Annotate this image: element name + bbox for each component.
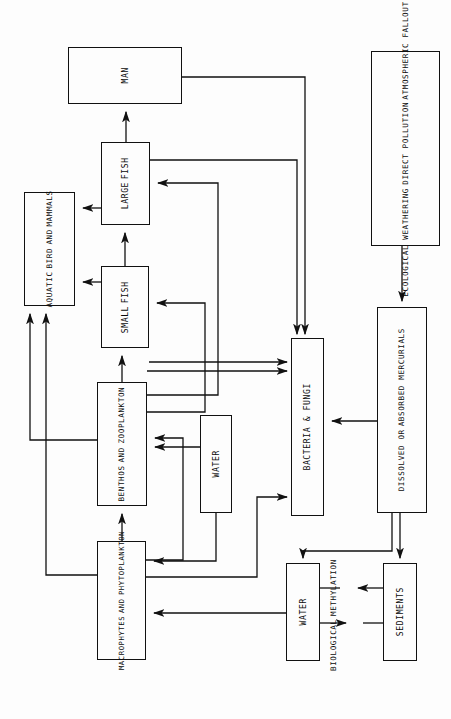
node-aquatic-bird-label-4: MAMMALS bbox=[46, 190, 54, 226]
node-aquatic-bird-and-mammals[interactable]: AQUATIC BIRD AND MAMMALS bbox=[24, 192, 75, 306]
node-aquatic-bird-label-1: AQUATIC bbox=[46, 272, 54, 308]
label-biological-methylation-line-1: BIOLOGICAL bbox=[330, 619, 338, 671]
node-small-fish[interactable]: SMALL FISH bbox=[101, 266, 149, 348]
edge-large-fish-to-bacteria bbox=[150, 160, 297, 334]
node-macrophytes-label-2: AND bbox=[118, 598, 126, 613]
edge-benthos-to-aquatic-bird bbox=[30, 314, 97, 440]
label-biological-methylation: BIOLOGICAL METHYLATION bbox=[330, 570, 364, 660]
node-benthos-label-3: ZOOPLANKTON bbox=[118, 387, 126, 444]
node-water-mid-label: WATER bbox=[212, 450, 220, 477]
node-man-label: MAN bbox=[121, 67, 129, 83]
node-macrophytes-and-phytoplankton[interactable]: MACROPHYTES AND PHYTOPLANKTON bbox=[97, 541, 146, 660]
node-aquatic-bird-label-2: BIRD bbox=[46, 248, 54, 269]
edge-mercurials-to-water-bottom bbox=[303, 513, 392, 558]
edge-macrophytes-to-aquatic-bird bbox=[46, 314, 97, 575]
edge-water-mid-to-macrophytes bbox=[154, 513, 216, 561]
node-large-fish[interactable]: LARGE FISH bbox=[101, 142, 150, 225]
node-benthos-and-zooplankton[interactable]: BENTHOS AND ZOOPLANKTON bbox=[97, 382, 147, 506]
node-weathering-label-2: DIRECT POLLUTION bbox=[402, 102, 410, 185]
node-benthos-label-1: BENTHOS bbox=[118, 465, 126, 501]
node-dissolved-or-absorbed-mercurials[interactable]: DISSOLVED OR ABSORBED MERCURIALS bbox=[377, 307, 427, 513]
node-weathering-label-3: ATMOSPHERIC FALLOUT bbox=[402, 1, 410, 99]
node-sediments[interactable]: SEDIMENTS bbox=[383, 563, 417, 661]
node-macrophytes-label-1: MACROPHYTES bbox=[118, 616, 126, 670]
node-mercurials-label-1: DISSOLVED OR bbox=[398, 430, 406, 492]
node-small-fish-label-1: SMALL bbox=[121, 306, 129, 333]
node-weathering-label-1: ECOLOGICAL WEATHERING bbox=[402, 188, 410, 297]
node-bacteria-and-fungi[interactable]: BACTERIA & FUNGI bbox=[291, 338, 324, 516]
edge-benthos-to-large-fish bbox=[147, 183, 218, 395]
node-bacteria-label: BACTERIA & FUNGI bbox=[303, 383, 311, 471]
node-sediments-label: SEDIMENTS bbox=[396, 587, 404, 636]
edge-macrophytes-to-benthos-right bbox=[146, 438, 183, 560]
node-small-fish-label-2: FISH bbox=[121, 281, 129, 303]
node-macrophytes-label-3: PHYTOPLANKTON bbox=[118, 531, 126, 595]
node-man[interactable]: MAN bbox=[68, 47, 182, 104]
node-water-bottom[interactable]: WATER bbox=[286, 563, 320, 661]
label-biological-methylation-line-2: METHYLATION bbox=[330, 559, 338, 616]
node-aquatic-bird-label-3: AND bbox=[46, 229, 54, 245]
node-water-bottom-label: WATER bbox=[299, 598, 307, 625]
diagram-canvas: MAN LARGE FISH SMALL FISH AQUATIC BIRD A… bbox=[0, 0, 451, 719]
node-large-fish-label-2: FISH bbox=[121, 157, 129, 179]
node-mercurials-label-2: ABSORBED MERCURIALS bbox=[398, 328, 406, 426]
node-water-mid[interactable]: WATER bbox=[200, 415, 232, 513]
node-ecological-weathering[interactable]: ECOLOGICAL WEATHERING DIRECT POLLUTION A… bbox=[371, 51, 440, 246]
node-large-fish-label-1: LARGE bbox=[121, 182, 129, 209]
node-benthos-label-2: AND bbox=[118, 447, 126, 463]
edge-man-to-bacteria bbox=[182, 77, 305, 334]
